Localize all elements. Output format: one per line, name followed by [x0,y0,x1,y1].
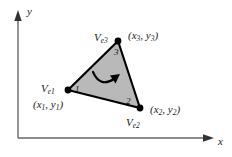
coord-2-close: ) [176,103,180,115]
vertex-label-3-subscript: e3 [101,36,108,45]
node-number-1: 1 [75,85,80,94]
node-dot-1 [65,87,72,94]
diagram-svg [0,0,232,157]
y-axis-label: y [27,6,32,17]
vertex-label-1-subscript: e1 [48,87,55,96]
y-axis [14,10,21,138]
figure-canvas: y x Ve3 (x3, y3) 3 Ve1 (x1, y1) 1 Ve2 (x… [0,0,232,157]
coord-label-2: (x2, y2) [150,104,180,116]
coord-3-close: ) [154,29,158,41]
vertex-label-2: Ve2 [126,117,140,129]
x-axis [18,134,214,141]
vertex-label-1-base: V [41,82,48,94]
vertex-label-1: Ve1 [41,83,55,95]
coord-label-3: (x3, y3) [128,30,158,42]
vertex-label-2-base: V [126,116,133,128]
vertex-label-3-base: V [94,31,101,43]
vertex-label-3: Ve3 [94,32,108,44]
node-number-3: 3 [114,48,119,57]
coord-label-1: (x1, y1) [33,99,63,111]
node-dot-2 [137,105,144,112]
x-axis-label: x [218,136,223,147]
vertex-label-2-subscript: e2 [133,121,140,130]
x-axis-arrowhead [203,134,214,141]
coord-1-close: ) [59,98,63,110]
y-axis-arrowhead [14,10,21,21]
node-dot-3 [115,38,122,45]
node-number-2: 2 [126,97,131,106]
